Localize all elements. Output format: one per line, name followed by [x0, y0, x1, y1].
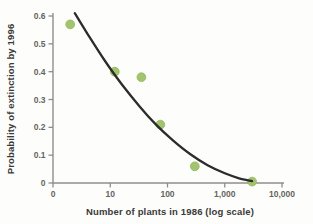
fitted-curve-path [75, 13, 252, 181]
axes [49, 13, 285, 188]
extinction-probability-figure: 00.10.20.30.40.50.60101001,00010,000 Pro… [0, 0, 313, 224]
x-tick-label: 100 [160, 189, 174, 199]
x-tick-label: 0 [51, 189, 56, 199]
data-point [190, 162, 199, 171]
axis-spine [53, 13, 284, 183]
x-tick-label: 1,000 [214, 189, 236, 199]
x-tick-label: 10,000 [269, 189, 295, 199]
data-point [66, 20, 75, 29]
plot-svg: 00.10.20.30.40.50.60101001,00010,000 [0, 0, 313, 224]
y-tick-label: 0.3 [34, 95, 46, 105]
y-axis-title: Probability of extinction by 1996 [5, 24, 16, 175]
data-point [137, 73, 146, 82]
tick-labels: 00.10.20.30.40.50.60101001,00010,000 [34, 11, 296, 199]
y-tick-label: 0.6 [34, 11, 46, 21]
y-tick-label: 0 [41, 178, 46, 188]
x-axis-title: Number of plants in 1986 (log scale) [86, 206, 254, 217]
y-tick-label: 0.5 [34, 39, 46, 49]
x-tick-label: 10 [106, 189, 116, 199]
y-tick-label: 0.1 [34, 150, 46, 160]
y-tick-label: 0.4 [34, 67, 46, 77]
y-tick-label: 0.2 [34, 122, 46, 132]
fitted-curve [75, 13, 252, 181]
